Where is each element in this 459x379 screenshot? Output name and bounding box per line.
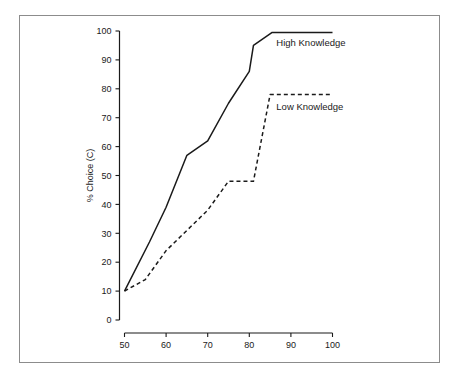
line-chart: 0102030405060708090100% Choice (C)506070… [0,0,459,379]
y-tick-label: 100 [96,26,111,36]
y-tick-label: 10 [101,286,111,296]
y-tick-label: 20 [101,257,111,267]
x-tick-label: 90 [286,340,296,350]
x-tick-label: 60 [161,340,171,350]
figure-canvas: 0102030405060708090100% Choice (C)506070… [0,0,459,379]
x-tick-label: 70 [203,340,213,350]
y-tick-label: 50 [101,171,111,181]
x-tick-label: 50 [119,340,129,350]
y-tick-label: 30 [101,229,111,239]
y-axis-title: % Choice (C) [85,149,95,203]
series-label-low-knowledge: Low Knowledge [276,101,343,112]
y-axis: 0102030405060708090100 [96,26,119,325]
series-line-low-knowledge [125,95,333,292]
y-tick-label: 60 [101,142,111,152]
y-tick-label: 0 [106,315,111,325]
y-tick-label: 80 [101,84,111,94]
y-tick-label: 90 [101,55,111,65]
x-axis: 5060708090100 [119,333,340,350]
y-axis-title-text: % Choice (C) [85,149,95,203]
y-tick-label: 40 [101,200,111,210]
x-tick-label: 80 [244,340,254,350]
series-line-high-knowledge [125,32,333,291]
y-tick-label: 70 [101,113,111,123]
x-tick-label: 100 [325,340,340,350]
series-label-high-knowledge: High Knowledge [276,37,345,48]
